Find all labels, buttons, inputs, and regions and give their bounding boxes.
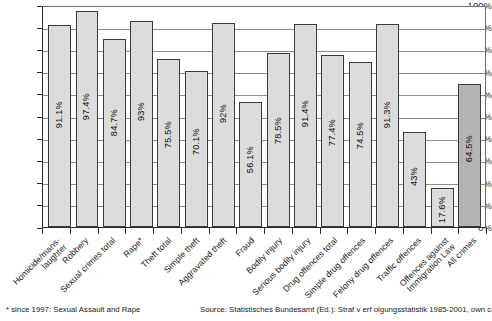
bar[interactable]: 74.5% [349,62,372,227]
x-axis-tick-mark [347,228,348,234]
bar-slot: 74.5% [346,7,373,227]
bar-value-label: 77.4% [328,119,337,146]
bar[interactable]: 97.4% [76,11,99,227]
bar-series: 91.1%97.4%84.7%93%75.5%70.1%92%56.1%78.5… [43,7,485,227]
x-axis-tick-mark [486,228,487,234]
bar[interactable]: 70.1% [185,71,208,227]
bar[interactable]: 93% [130,21,153,227]
source-citation: Source: Statistisches Bundesamt (Ed.): S… [200,305,492,314]
bar-value-label: 17.6% [437,196,446,223]
bar-value-label: 91.4% [301,101,310,128]
bar-slot: 43% [401,7,428,227]
bar[interactable]: 64.5% [458,84,481,227]
bar[interactable]: 17.6% [431,188,454,227]
bar-value-label: 75.5% [164,121,173,148]
bar-slot: 93% [128,7,155,227]
x-axis-tick-mark [98,228,99,234]
bar-slot: 97.4% [73,7,100,227]
bar-slot: 91.1% [46,7,73,227]
bar-value-label: 64.5% [465,135,474,162]
bar-slot: 78.5% [265,7,292,227]
bar[interactable]: 78.5% [267,53,290,227]
x-axis-tick-mark [209,228,210,234]
bar-value-label: 74.5% [355,122,364,149]
x-axis-tick-mark [236,228,237,234]
bar-slot: 17.6% [428,7,455,227]
bar-slot: 64.5% [456,7,483,227]
x-axis-tick-mark [42,228,43,234]
bar-value-label: 70.1% [192,128,201,155]
bar[interactable]: 77.4% [321,55,344,227]
x-axis-tick-mark [458,228,459,234]
bar-slot: 77.4% [319,7,346,227]
bar[interactable]: 91.3% [376,24,399,227]
bar-slot: 91.4% [292,7,319,227]
bar-value-label: 91.1% [55,101,64,128]
bar-value-label: 43% [410,167,419,186]
x-axis-tick-mark [431,228,432,234]
bar[interactable]: 92% [212,23,235,227]
x-axis-tick-mark [264,228,265,234]
bar-value-label: 84.7% [110,109,119,136]
bar-chart: 0%10%20%30%40%50%60%70%80%90%100% 91.1%9… [0,0,492,321]
footnote: * since 1997: Sexual Assault and Rape [6,305,140,314]
bar-value-label: 56.1% [246,146,255,173]
plot-area: 91.1%97.4%84.7%93%75.5%70.1%92%56.1%78.5… [42,6,486,228]
x-axis-labels: Homicide/mans- laughterRobberySexual cri… [42,236,492,298]
bar[interactable]: 91.4% [294,24,317,227]
bar-slot: 84.7% [101,7,128,227]
bar-value-label: 92% [219,104,228,123]
x-axis-tick-mark [292,228,293,234]
bar[interactable]: 56.1% [239,102,262,227]
bar[interactable]: 43% [403,132,426,227]
bar-slot: 56.1% [237,7,264,227]
bar[interactable]: 91.1% [48,25,71,227]
x-axis-tick-mark [181,228,182,234]
bar-value-label: 93% [137,103,146,122]
x-axis-ticks [42,228,486,235]
x-axis-tick-mark [70,228,71,234]
x-axis-tick-mark [375,228,376,234]
bar-slot: 92% [210,7,237,227]
bar-slot: 75.5% [155,7,182,227]
bar-value-label: 97.4% [82,93,91,120]
bar-value-label: 91.3% [383,101,392,128]
x-axis-tick-mark [403,228,404,234]
bar-slot: 91.3% [374,7,401,227]
x-axis-tick-mark [153,228,154,234]
bar-slot: 70.1% [183,7,210,227]
bar[interactable]: 84.7% [103,39,126,227]
x-axis-tick-mark [125,228,126,234]
x-axis-tick-mark [320,228,321,234]
bar[interactable]: 75.5% [157,59,180,227]
bar-value-label: 78.5% [274,117,283,144]
